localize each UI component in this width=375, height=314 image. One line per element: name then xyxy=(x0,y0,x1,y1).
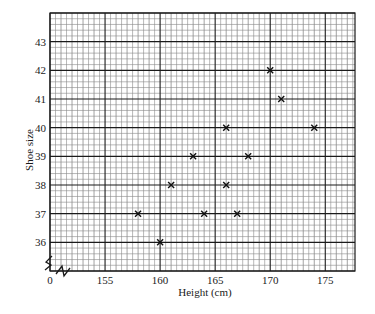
x-tick-label: 155 xyxy=(97,274,114,286)
plot-border xyxy=(50,13,355,271)
y-axis-title: Shoe size xyxy=(23,129,35,171)
x-axis-title: Height (cm) xyxy=(178,286,232,299)
y-tick-label: 37 xyxy=(35,208,47,220)
x-tick-label: 160 xyxy=(152,274,169,286)
y-tick-label: 36 xyxy=(35,236,47,248)
x-tick-label: 170 xyxy=(262,274,279,286)
x-axis-ticks: 0155160165170175 xyxy=(47,274,334,286)
y-tick-label: 41 xyxy=(35,93,46,105)
y-tick-label: 42 xyxy=(35,64,46,76)
grid-major-lines xyxy=(50,13,355,271)
x-axis-break-icon xyxy=(56,266,70,276)
y-tick-label: 40 xyxy=(35,122,47,134)
y-axis-break-icon xyxy=(45,256,52,270)
grid-minor-lines xyxy=(50,13,355,271)
y-tick-label: 39 xyxy=(35,150,47,162)
y-axis-ticks: 3637383940414243 xyxy=(35,36,47,249)
y-tick-label: 43 xyxy=(35,36,47,48)
x-tick-label: 165 xyxy=(207,274,224,286)
x-tick-label: 175 xyxy=(317,274,334,286)
scatter-chart: 3637383940414243 0155160165170175 Height… xyxy=(0,0,375,314)
x-tick-label: 0 xyxy=(47,274,53,286)
y-tick-label: 38 xyxy=(35,179,47,191)
